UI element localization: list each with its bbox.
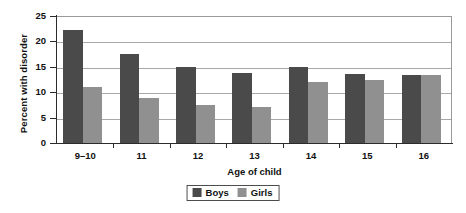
- y-axis-tick: [50, 41, 57, 42]
- x-axis-tick: [283, 143, 284, 148]
- x-axis-tick: [226, 143, 227, 148]
- bar-group: [113, 16, 169, 143]
- bar-group: [57, 16, 113, 143]
- y-axis-tick-label: 20: [24, 35, 46, 46]
- x-axis-tick-label: 14: [283, 150, 339, 161]
- x-axis-tick: [339, 143, 340, 148]
- bar-group: [170, 16, 226, 143]
- bar-boys-9-10: [63, 30, 82, 143]
- x-axis-tick: [170, 143, 171, 148]
- x-axis-tick-label: 12: [170, 150, 226, 161]
- y-axis-tick-label: 10: [24, 86, 46, 97]
- x-axis-tick: [113, 143, 114, 148]
- bar-group: [339, 16, 395, 143]
- y-axis-tick: [50, 67, 57, 68]
- legend-label: Boys: [206, 188, 229, 198]
- chart-legend: BoysGirls: [187, 185, 280, 201]
- bar-girls-12: [196, 105, 215, 143]
- y-axis-tick: [50, 143, 57, 144]
- bar-boys-14: [289, 67, 308, 143]
- bar-boys-15: [345, 74, 364, 143]
- y-axis-tick: [50, 16, 57, 17]
- legend-swatch-girls-icon: [238, 188, 247, 197]
- x-axis-tick-label: 13: [226, 150, 282, 161]
- x-axis-line: [56, 143, 453, 144]
- bar-boys-13: [232, 73, 251, 143]
- x-axis-tick-label: 11: [113, 150, 169, 161]
- bars-layer: [57, 16, 452, 143]
- bar-chart: Percent with disorder 0510152025 9–10111…: [0, 0, 466, 213]
- bar-group: [226, 16, 282, 143]
- bar-girls-9-10: [83, 87, 102, 143]
- y-axis-tick-label: 25: [24, 10, 46, 21]
- bar-girls-16: [421, 75, 440, 143]
- x-axis-title: Age of child: [57, 166, 452, 177]
- y-axis-tick-label: 0: [24, 137, 46, 148]
- bar-boys-12: [176, 67, 195, 143]
- bar-boys-16: [402, 75, 421, 143]
- x-axis-tick-label: 9–10: [57, 150, 113, 161]
- y-axis-tick: [50, 92, 57, 93]
- bar-girls-11: [139, 98, 158, 143]
- legend-swatch-boys-icon: [193, 188, 202, 197]
- bar-girls-15: [365, 80, 384, 143]
- x-axis-tick: [396, 143, 397, 148]
- y-axis-tick: [50, 118, 57, 119]
- legend-entry-girls: Girls: [238, 188, 273, 198]
- y-axis-tick-label: 15: [24, 61, 46, 72]
- y-axis-tick-label: 5: [24, 112, 46, 123]
- bar-girls-13: [252, 107, 271, 143]
- legend-entry-boys: Boys: [193, 188, 229, 198]
- x-axis-tick-label: 16: [396, 150, 452, 161]
- bar-group: [396, 16, 452, 143]
- legend-label: Girls: [251, 188, 273, 198]
- bar-girls-14: [308, 82, 327, 143]
- x-axis-tick-label: 15: [339, 150, 395, 161]
- bar-group: [283, 16, 339, 143]
- bar-boys-11: [120, 54, 139, 143]
